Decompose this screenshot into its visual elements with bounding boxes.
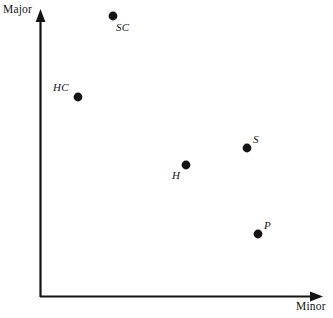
data-point-label: HC (53, 81, 69, 93)
x-axis-title: Minor (296, 300, 326, 312)
data-point-marker (182, 161, 191, 170)
data-point-marker (243, 144, 252, 153)
y-axis-title: Major (3, 3, 32, 15)
data-point-marker (254, 230, 263, 239)
axes-group (36, 9, 323, 301)
major-axis-arrowhead (36, 9, 46, 22)
data-point-marker (74, 93, 83, 102)
data-point-label: SC (116, 21, 129, 33)
data-point-label: S (253, 133, 259, 145)
scatter-plot-figure: Major Minor SC HC S H P (0, 0, 333, 318)
plot-canvas (0, 0, 333, 318)
data-point-marker (109, 12, 118, 21)
data-point-label: H (172, 169, 180, 181)
data-point-label: P (264, 219, 271, 231)
data-points-group (74, 12, 263, 239)
